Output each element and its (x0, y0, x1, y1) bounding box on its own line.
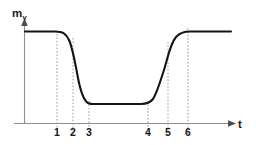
x-axis-arrow (228, 120, 236, 127)
x-axis-label: t (238, 118, 242, 130)
guide-lines (57, 28, 188, 136)
y-axis-label-main: m (12, 7, 22, 19)
x-tick-label-2: 2 (70, 126, 76, 138)
light-curve-figure: 1 2 3 4 5 6 t m v (0, 0, 256, 145)
x-tick-labels: 1 2 3 4 5 6 (54, 126, 191, 138)
x-tick-label-6: 6 (185, 126, 191, 138)
y-axis-label: m v (12, 7, 28, 22)
x-tick-label-3: 3 (86, 126, 92, 138)
light-curve-path (25, 32, 231, 105)
y-axis-label-subscript: v (23, 13, 28, 22)
x-tick-label-1: 1 (54, 126, 60, 138)
y-axis (21, 18, 28, 124)
x-tick-label-4: 4 (145, 126, 151, 138)
x-axis (14, 120, 236, 127)
x-tick-label-5: 5 (165, 126, 171, 138)
light-curve-plot: 1 2 3 4 5 6 t m v (0, 0, 256, 145)
